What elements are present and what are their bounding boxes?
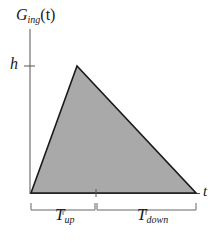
triangle-diagram [0, 0, 219, 249]
h-label: h [10, 55, 18, 73]
y-label-arg: (t) [40, 6, 55, 23]
y-label-sub: ing [28, 14, 41, 25]
y-axis-label: Ging(t) [16, 6, 55, 25]
triangle-shape [31, 66, 196, 193]
t-down-label: Tdown [137, 205, 168, 225]
t-down-sub: down [146, 214, 168, 225]
y-label-main: G [16, 6, 28, 23]
t-up-sub: up [64, 214, 74, 225]
x-axis-label: t [203, 183, 207, 200]
t-up-label: Tup [55, 205, 74, 225]
